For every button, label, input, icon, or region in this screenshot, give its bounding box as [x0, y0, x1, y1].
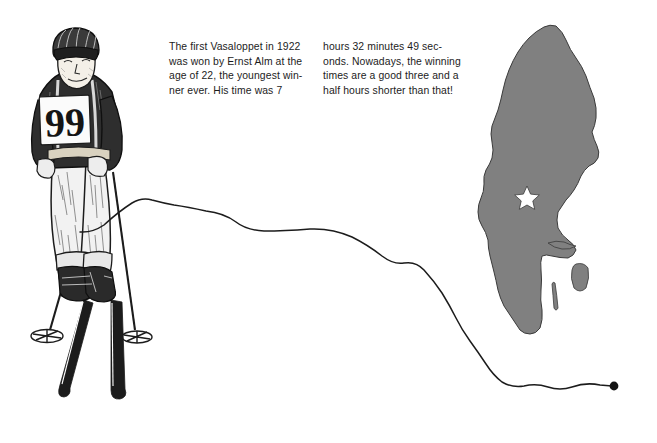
- caption-column-left: The first Vasaloppet in 1922 was won by …: [169, 40, 319, 98]
- knitted-cap: [53, 28, 99, 60]
- illustration-page: 99: [0, 0, 657, 443]
- pole-baskets: [31, 330, 152, 344]
- island-oland: [552, 282, 558, 310]
- bib-number: 99: [44, 99, 86, 145]
- ski-boots: [58, 266, 116, 302]
- skier-figure: 99: [31, 28, 152, 399]
- caption-column-right: hours 32 minutes 49 sec- onds. Nowadays,…: [323, 40, 475, 98]
- trail-end-dot: [610, 382, 619, 391]
- skis: [59, 300, 126, 399]
- island-gotland: [571, 264, 588, 292]
- map-of-sweden: [478, 25, 599, 334]
- race-bib: 99: [39, 95, 91, 146]
